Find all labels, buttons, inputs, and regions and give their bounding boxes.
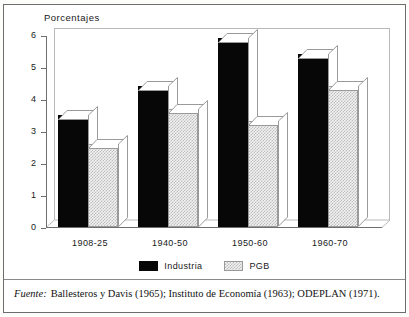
source-divider [4,279,405,280]
bar-front-face [138,86,168,227]
y-tick-label: 3 [31,126,36,136]
x-label-1940-50: 1940-50 [130,238,210,248]
legend-swatch-industria-icon [139,261,158,271]
figure-bar-chart: Porcentajes 0123456 1908-251940-501950-6… [0,0,409,317]
bar-industria-1908-25 [58,115,88,227]
y-tick-label: 5 [31,62,36,72]
bar-top-face [248,112,278,121]
bar-top-face [328,77,358,86]
bar-group-1940-50 [138,35,218,227]
y-tick-1: 1 [41,196,46,197]
bar-pgb-1950-60 [248,121,278,227]
bar-group-1908-25 [58,35,138,227]
bar-industria-1960-70 [298,54,328,227]
bar-side-face [278,112,287,227]
axis-unit-title: Porcentajes [44,12,100,23]
y-tick-label: 0 [31,222,36,232]
bar-front-face [58,115,88,227]
bar-pgb-1960-70 [328,86,358,227]
y-tick-4: 4 [41,100,46,101]
bar-front-face [168,109,198,227]
bar-top-face [88,135,118,144]
x-label-1960-70: 1960-70 [290,238,370,248]
legend-swatch-pgb-icon [224,261,243,271]
source-label: Fuente: [14,288,47,299]
bar-front-face [328,86,358,227]
chart-legend: Industria PGB [0,261,409,271]
bar-group-1960-70 [298,35,378,227]
bar-front-face [218,38,248,227]
bar-front-face [88,144,118,227]
y-tick-6: 6 [41,36,46,37]
bar-industria-1950-60 [218,38,248,227]
source-note: Fuente:Ballesteros y Davis (1965); Insti… [14,288,399,299]
source-text: Ballesteros y Davis (1965); Instituto de… [51,288,380,299]
y-tick-3: 3 [41,132,46,133]
x-axis-line [46,227,382,228]
y-tick-2: 2 [41,164,46,165]
legend-item-pgb: PGB [224,261,269,271]
bar-side-face [198,100,207,227]
y-axis-line [46,36,47,228]
bar-industria-1940-50 [138,86,168,227]
y-tick-label: 1 [31,190,36,200]
bar-pgb-1908-25 [88,144,118,227]
legend-item-industria: Industria [139,261,202,271]
bar-front-face [298,54,328,227]
bar-side-face [118,135,127,227]
bar-top-face [298,45,328,54]
plot-area: 0123456 [46,28,390,228]
y-tick-label: 4 [31,94,36,104]
legend-label-industria: Industria [164,261,202,271]
y-tick-0: 0 [41,228,46,229]
bar-group-1950-60 [218,35,298,227]
y-tick-5: 5 [41,68,46,69]
bar-top-face [168,100,198,109]
bar-side-face [358,77,367,227]
bar-pgb-1940-50 [168,109,198,227]
legend-label-pgb: PGB [249,261,269,271]
x-label-1908-25: 1908-25 [50,238,130,248]
bar-top-face [138,77,168,86]
bar-top-face [58,106,88,115]
y-tick-label: 6 [31,30,36,40]
bar-top-face [218,29,248,38]
x-label-1950-60: 1950-60 [210,238,290,248]
y-tick-label: 2 [31,158,36,168]
bar-front-face [248,121,278,227]
